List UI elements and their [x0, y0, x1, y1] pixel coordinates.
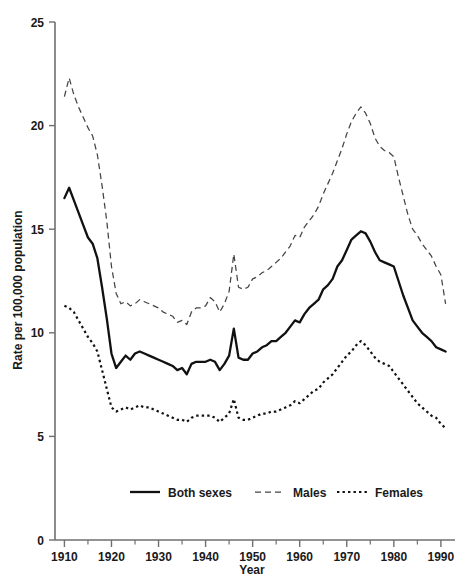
- x-tick-label-1940: 1940: [192, 550, 219, 564]
- chart-legend: Both sexesMalesFemales: [130, 486, 423, 500]
- chart-container: 0510152025 19101920193019401950196019701…: [0, 0, 463, 582]
- series-line-females: [64, 306, 445, 428]
- legend-item-males[interactable]: Males: [255, 486, 327, 500]
- y-tick-label-0: 0: [37, 534, 44, 548]
- x-tick-label-1920: 1920: [98, 550, 125, 564]
- y-tick-label-25: 25: [31, 16, 45, 30]
- y-tick-label-5: 5: [37, 430, 44, 444]
- y-axis-title: Rate per 100,000 population: [11, 210, 25, 369]
- legend-item-both-sexes[interactable]: Both sexes: [130, 486, 232, 500]
- y-axis: 0510152025: [31, 16, 55, 548]
- x-tick-label-1970: 1970: [333, 550, 360, 564]
- x-tick-label-1990: 1990: [428, 550, 455, 564]
- y-tick-label-15: 15: [31, 223, 45, 237]
- line-chart: 0510152025 19101920193019401950196019701…: [0, 0, 463, 582]
- series-layer: [64, 78, 445, 428]
- series-line-both-sexes: [64, 188, 445, 374]
- x-axis: 191019201930194019501960197019801990: [51, 540, 455, 564]
- x-tick-label-1960: 1960: [286, 550, 313, 564]
- x-tick-label-1910: 1910: [51, 550, 78, 564]
- x-tick-label-1980: 1980: [380, 550, 407, 564]
- legend-label-2: Females: [375, 486, 423, 500]
- legend-label-1: Males: [293, 486, 327, 500]
- x-axis-title: Year: [239, 563, 265, 577]
- legend-item-females[interactable]: Females: [337, 486, 423, 500]
- x-tick-label-1930: 1930: [145, 550, 172, 564]
- series-line-males: [64, 78, 445, 325]
- x-tick-label-1950: 1950: [239, 550, 266, 564]
- y-tick-label-10: 10: [31, 326, 45, 340]
- y-tick-label-20: 20: [31, 119, 45, 133]
- legend-label-0: Both sexes: [168, 486, 232, 500]
